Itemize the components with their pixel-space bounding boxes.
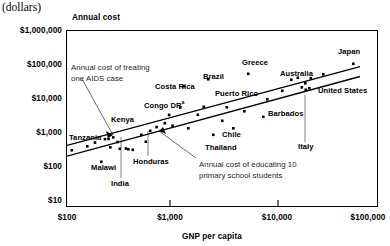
data-point xyxy=(104,138,107,141)
data-point xyxy=(243,110,246,113)
data-point xyxy=(112,136,115,139)
data-point xyxy=(212,134,215,137)
data-point xyxy=(226,106,229,109)
data-point xyxy=(149,130,152,133)
annotation-education-cost-line1: Annual cost of educating 10 xyxy=(199,160,297,171)
data-point xyxy=(164,122,167,125)
x-axis-ticks xyxy=(170,200,278,207)
data-point xyxy=(197,114,200,117)
data-point xyxy=(304,82,307,85)
data-point xyxy=(301,86,304,89)
data-point xyxy=(155,126,158,129)
data-point xyxy=(203,106,206,109)
country-label-australia: Australia xyxy=(280,69,313,78)
country-label-barbados: Barbados xyxy=(268,109,303,118)
data-point xyxy=(145,140,148,143)
data-point xyxy=(247,73,250,76)
country-label-kenya: Kenya xyxy=(111,115,134,124)
annotation-aids-cost-line1: Annual cost of treating xyxy=(71,63,150,74)
country-label-honduras: Honduras xyxy=(133,157,169,166)
data-point xyxy=(308,87,311,90)
annotation-education-cost: Annual cost of educating 10 primary scho… xyxy=(199,160,297,182)
data-point xyxy=(127,148,130,151)
country-label-congo-dr: Congo DRa xyxy=(144,101,184,110)
country-label-chile: Chile xyxy=(222,130,241,139)
leader-line-education-note xyxy=(159,131,196,158)
country-label-malawi: Malawi xyxy=(91,163,116,172)
data-point xyxy=(125,147,128,150)
data-point xyxy=(171,124,174,127)
data-point xyxy=(116,141,119,144)
data-point xyxy=(262,116,265,119)
data-point xyxy=(107,138,110,141)
data-point xyxy=(221,120,224,123)
data-point xyxy=(290,79,293,82)
data-point xyxy=(86,145,89,148)
country-label-greece: Greece xyxy=(242,58,268,67)
data-point xyxy=(140,134,143,137)
annotation-aids-cost-line2: one AIDS case xyxy=(71,74,150,85)
country-label-tanzania: Tanzania xyxy=(69,133,101,142)
country-label-congo-dr-text: Congo DR xyxy=(144,101,182,110)
data-point xyxy=(322,73,325,76)
data-point xyxy=(71,149,74,152)
country-label-puerto-rico: Puerto Rico xyxy=(215,89,258,98)
country-label-india: India xyxy=(111,179,129,188)
country-label-brazil: Brazil xyxy=(203,72,224,81)
country-label-japan: Japan xyxy=(338,47,360,56)
data-point xyxy=(132,149,135,152)
country-label-italy: Italy xyxy=(298,142,313,151)
data-point xyxy=(119,148,122,151)
data-point xyxy=(352,63,355,66)
data-point xyxy=(266,98,269,101)
data-point xyxy=(281,90,284,93)
congo-footnote-marker: a xyxy=(182,99,185,105)
country-label-costa-rica: Costa Rica xyxy=(155,82,195,91)
data-point xyxy=(109,146,112,149)
data-point xyxy=(305,89,308,92)
annotation-education-cost-line2: primary school students xyxy=(199,171,297,182)
country-label-united-states: United States xyxy=(318,86,367,95)
country-label-thailand: Thailand xyxy=(205,143,237,152)
data-point xyxy=(168,114,171,117)
annotation-aids-cost: Annual cost of treating one AIDS case xyxy=(71,63,150,85)
leader-line-aids-note xyxy=(82,79,113,135)
data-point xyxy=(187,127,190,130)
